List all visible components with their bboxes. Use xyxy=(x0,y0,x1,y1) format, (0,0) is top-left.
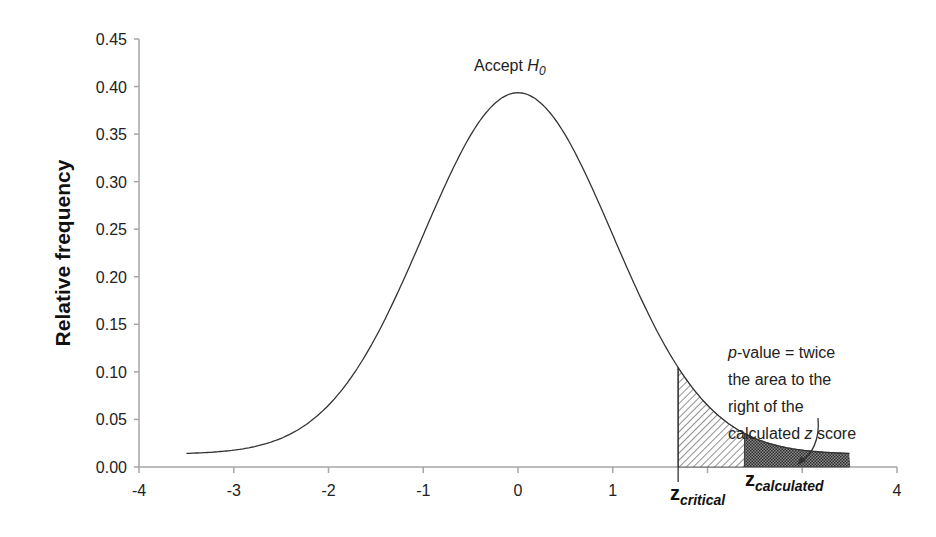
svg-text:the area to the: the area to the xyxy=(728,371,831,388)
z-critical-label: zcritical xyxy=(670,482,726,508)
y-tick-label: 0.35 xyxy=(96,126,127,143)
y-tick-label: 0.00 xyxy=(96,459,127,476)
chart: 0.000.050.100.150.200.250.300.350.400.45… xyxy=(0,0,936,537)
z-calculated-label: zcalculated xyxy=(745,468,824,494)
x-tick-label: -2 xyxy=(321,482,335,499)
y-axis: 0.000.050.100.150.200.250.300.350.400.45 xyxy=(96,31,139,476)
x-tick-label: 4 xyxy=(893,482,902,499)
x-tick-label: -1 xyxy=(416,482,430,499)
y-tick-label: 0.15 xyxy=(96,316,127,333)
svg-text:right of the: right of the xyxy=(728,398,804,415)
svg-text:calculated z score: calculated z score xyxy=(728,425,856,442)
y-tick-label: 0.05 xyxy=(96,411,127,428)
y-tick-label: 0.30 xyxy=(96,174,127,191)
x-tick-label: -3 xyxy=(227,482,241,499)
y-axis-title: Relative frequency xyxy=(51,159,74,346)
p-value-annotation: p-value = twice the area to the right of… xyxy=(727,344,856,442)
x-tick-label: -4 xyxy=(132,482,146,499)
y-tick-label: 0.10 xyxy=(96,364,127,381)
y-tick-label: 0.20 xyxy=(96,269,127,286)
x-tick-label: 1 xyxy=(608,482,617,499)
x-tick-label: 0 xyxy=(514,482,523,499)
y-tick-label: 0.25 xyxy=(96,221,127,238)
y-tick-label: 0.45 xyxy=(96,31,127,48)
svg-text:p-value = twice: p-value = twice xyxy=(727,344,835,361)
accept-h0-label: Accept H0 xyxy=(474,57,546,78)
y-tick-label: 0.40 xyxy=(96,79,127,96)
